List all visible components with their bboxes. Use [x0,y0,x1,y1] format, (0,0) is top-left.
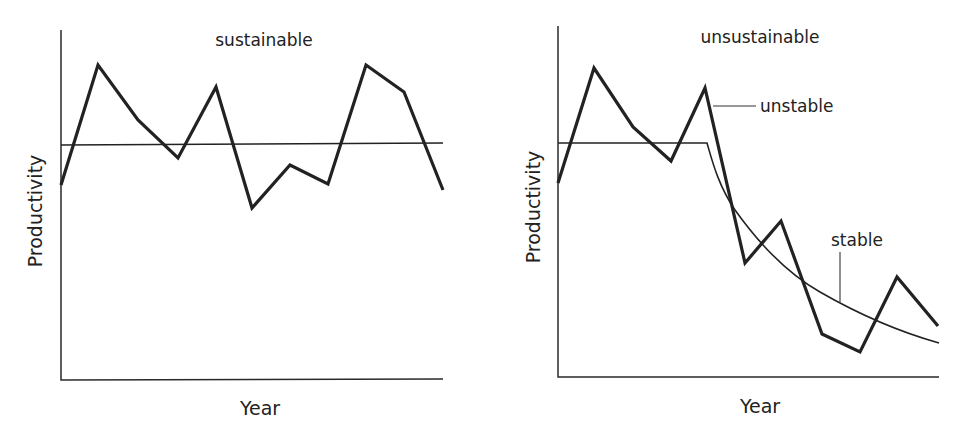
chart-figure: sustainable Year Productivity unstable s… [0,0,962,434]
right-axes [558,26,939,377]
left-y-axis-label: Productivity [24,155,46,268]
left-x-axis-label: Year [239,397,280,419]
left-productivity-line [61,65,443,208]
left-chart-sustainable: sustainable Year Productivity [24,30,443,419]
right-chart-unsustainable: unstable stable unsustainable Year Produ… [522,26,939,417]
unstable-annotation: unstable [760,96,833,116]
right-chart-title: unsustainable [700,27,819,47]
left-chart-title: sustainable [215,30,312,50]
stable-annotation: stable [831,230,883,250]
left-mean-line [61,143,443,145]
unstable-line [558,68,938,352]
right-y-axis-label: Productivity [522,151,544,264]
right-x-axis-label: Year [739,395,780,417]
